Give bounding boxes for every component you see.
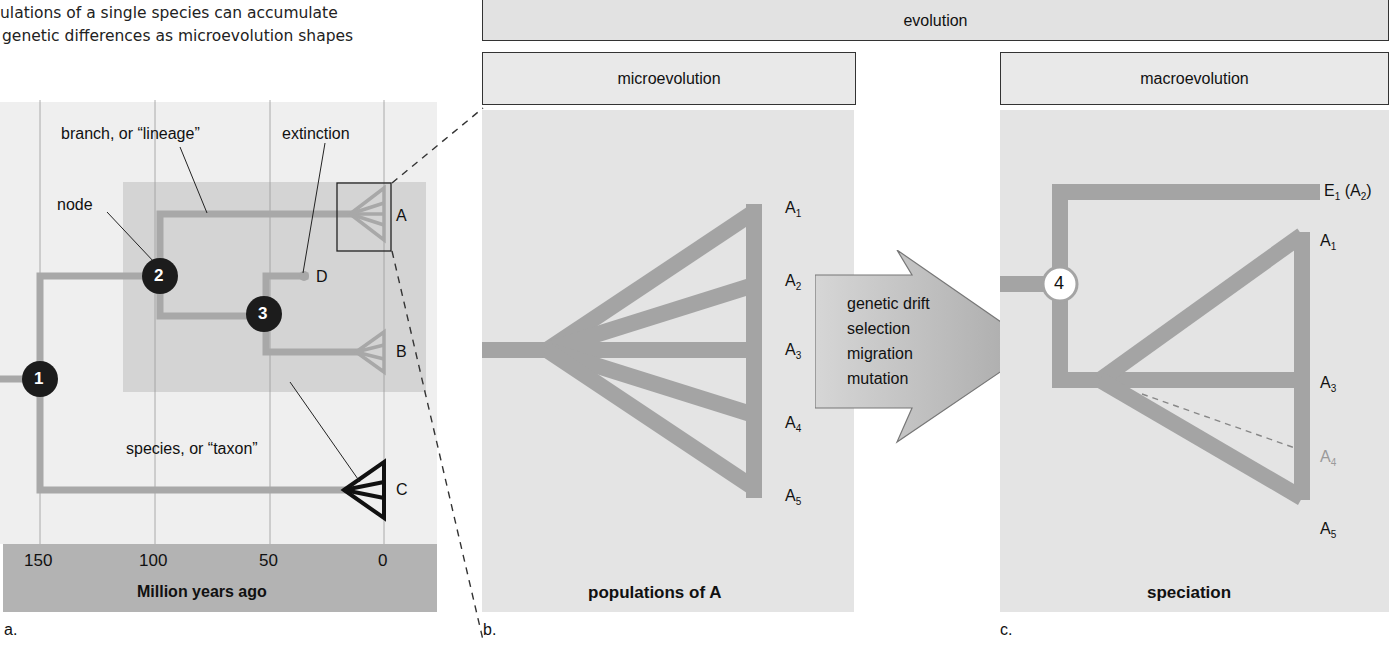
population-a5: A5 [785, 487, 801, 507]
node-annotation: node [57, 196, 93, 214]
force-selection: selection [847, 316, 930, 341]
panel-c-letter: c. [1000, 621, 1012, 639]
extinction-dot [299, 271, 309, 281]
axis-title: Million years ago [137, 583, 267, 601]
extinction-annotation: extinction [282, 125, 350, 143]
taxon-a-triangle [350, 188, 384, 240]
time-axis-bar [3, 544, 437, 612]
species-a3-label: A3 [1320, 374, 1336, 394]
node-1-label: 1 [34, 369, 43, 389]
node-4-label: 4 [1054, 273, 1064, 294]
taxon-c-triangle [344, 462, 384, 518]
population-a2: A2 [785, 272, 801, 292]
evolutionary-forces-list: genetic drift selection migration mutati… [847, 291, 930, 391]
panel-a-tree [0, 100, 440, 550]
node-3-label: 3 [258, 304, 267, 324]
force-genetic-drift: genetic drift [847, 291, 930, 316]
species-a5-label: A5 [1320, 520, 1336, 540]
macroevolution-header-label: macroevolution [1140, 70, 1249, 88]
time-gridlines [40, 100, 384, 545]
panel-b-letter: b. [483, 621, 496, 639]
axis-tick-50: 50 [259, 551, 278, 571]
zoom-connector-lines [380, 0, 490, 648]
panel-c-caption: speciation [1147, 583, 1231, 603]
node-2-label: 2 [154, 266, 163, 286]
panel-b-caption: populations of A [588, 583, 721, 603]
force-migration: migration [847, 341, 930, 366]
population-a1: A1 [785, 199, 801, 219]
force-mutation: mutation [847, 366, 930, 391]
species-annotation: species, or “taxon” [126, 440, 258, 458]
macroevolution-header: macroevolution [1000, 52, 1389, 105]
species-e1-label: E1 (A2) [1324, 182, 1372, 202]
taxon-d-label: D [316, 268, 328, 286]
panel-a-letter: a. [4, 621, 17, 639]
population-a3: A3 [785, 341, 801, 361]
microevolution-header: microevolution [482, 52, 856, 105]
axis-tick-150: 150 [24, 551, 52, 571]
microevolution-header-label: microevolution [617, 70, 720, 88]
species-a4-label-extinct: A4 [1320, 448, 1336, 468]
population-a4: A4 [785, 414, 801, 434]
evolution-header-label: evolution [903, 12, 967, 30]
branch-annotation: branch, or “lineage” [61, 125, 200, 143]
axis-tick-100: 100 [139, 551, 167, 571]
evolution-header: evolution [482, 0, 1389, 41]
panel-c-speciation-tree [1000, 150, 1320, 570]
species-a1-label: A1 [1320, 232, 1336, 252]
panel-b-population-fan [482, 180, 782, 530]
